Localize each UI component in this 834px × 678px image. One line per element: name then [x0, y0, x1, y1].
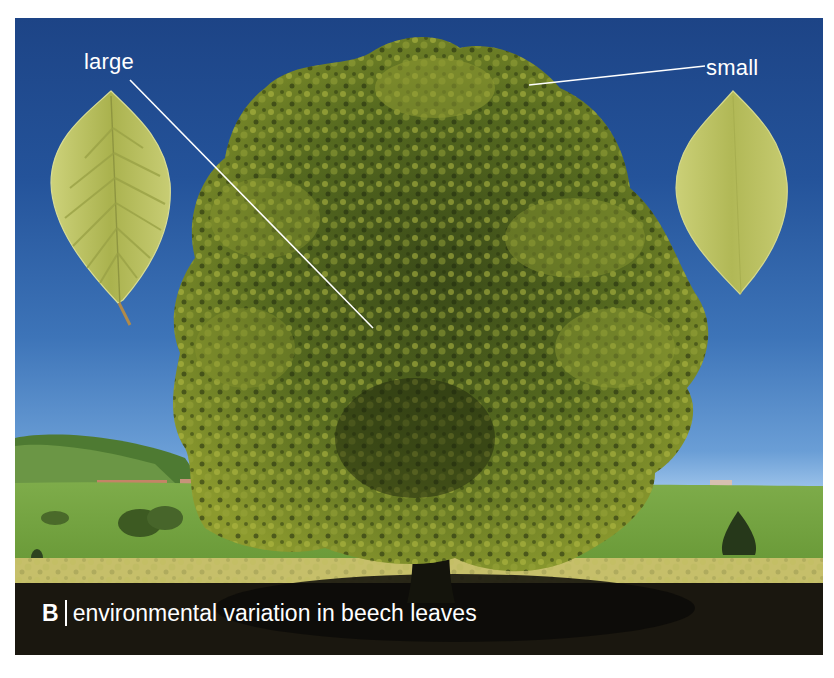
label-small: small — [706, 55, 758, 81]
panel-letter: B — [42, 600, 59, 626]
small-leader-line — [529, 66, 705, 85]
beech-tree-figure: large small Benvironmental variation in … — [15, 18, 823, 655]
caption-text: environmental variation in beech leaves — [73, 600, 477, 626]
small-beech-leaf — [676, 91, 787, 294]
label-large: large — [84, 49, 134, 75]
landscape-scene — [15, 18, 823, 655]
large-beech-leaf — [51, 91, 170, 325]
caption-divider — [65, 600, 67, 626]
figure-caption: Benvironmental variation in beech leaves — [42, 600, 477, 627]
